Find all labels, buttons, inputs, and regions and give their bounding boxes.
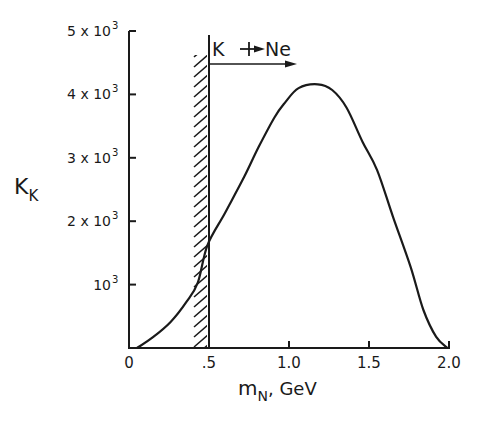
x-tick-label: .5 [202,354,216,372]
y-tick-exponent: 3 [112,210,118,221]
series-line-kk [137,84,447,348]
annotation-label-k: K [212,38,225,60]
y-tick-exponent: 3 [112,274,118,285]
decay-annotation: K Ne [209,38,297,68]
x-tick-label: 0 [124,354,134,372]
y-tick-exponent: 3 [112,83,118,94]
svg-text:KK: KK [14,174,39,205]
annotation-arrow-head [254,46,265,53]
x-tick-label: 1.0 [277,354,301,372]
y-label-main: K [14,174,29,199]
y-tick-exponent: 3 [112,20,118,31]
x-tick-label: 1.5 [357,354,381,372]
svg-text:mN, GeV: mN, GeV [238,376,317,404]
chart: K Ne 0.51.01.52.0 1032 x 1033 x 1034 x 1… [0,0,485,424]
x-axis-label: mN, GeV [238,376,317,404]
y-ticks: 1032 x 1033 x 1034 x 1035 x 103 [67,20,136,293]
arrow-head [285,61,297,68]
y-tick-label: 4 x 10 [67,86,111,102]
y-label-subscript: K [28,187,39,205]
y-tick-label: 5 x 10 [67,23,111,39]
y-tick-label: 10 [93,277,111,293]
x-label-main: m [238,376,257,400]
y-tick-exponent: 3 [112,147,118,158]
axes [128,31,450,349]
y-axis-label: KK [14,174,39,205]
y-tick-label: 2 x 10 [67,213,111,229]
hatch-line [194,34,209,47]
y-tick-label: 3 x 10 [67,150,111,166]
annotation-label-ne: Ne [265,38,291,60]
excluded-region-hatch [194,34,209,367]
x-label-subscript: N [257,388,267,404]
x-ticks: 0.51.01.52.0 [124,341,461,372]
x-tick-label: 2.0 [437,354,461,372]
x-label-unit: , GeV [268,378,317,399]
